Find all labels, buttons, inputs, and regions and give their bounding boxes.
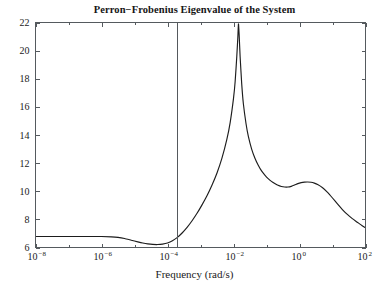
x-tick-exponent: −4 — [171, 250, 179, 258]
x-tick-label: 10 — [94, 251, 104, 262]
y-tick-label: 10 — [20, 186, 30, 197]
y-tick-label: 8 — [25, 214, 30, 225]
y-tick-label: 12 — [20, 158, 30, 169]
y-tick-label: 22 — [20, 17, 30, 28]
x-tick-labels: 10−810−610−410−2100102 — [28, 250, 373, 262]
y-tick-label: 20 — [20, 45, 30, 56]
x-axis-label: Frequency (rad/s) — [0, 268, 389, 280]
y-tick-label: 6 — [25, 242, 30, 253]
y-tick-label: 14 — [20, 130, 30, 141]
x-tick-label: 10 — [160, 251, 170, 262]
y-tick-label: 18 — [20, 73, 30, 84]
x-tick-exponent: 0 — [303, 250, 307, 258]
x-tick-label: 10 — [358, 251, 368, 262]
x-tick-label: 10 — [226, 251, 236, 262]
plot-background — [35, 22, 365, 247]
chart-figure: Perron−Frobenius Eigenvalue of the Syste… — [0, 0, 389, 288]
x-tick-exponent: 2 — [369, 250, 373, 258]
y-tick-label: 16 — [20, 101, 30, 112]
plot-area: 10−810−610−410−2100102 6810121416182022 — [0, 0, 389, 288]
x-tick-exponent: −6 — [105, 250, 113, 258]
y-tick-labels: 6810121416182022 — [20, 17, 30, 253]
x-tick-label: 10 — [292, 251, 302, 262]
x-tick-exponent: −2 — [237, 250, 245, 258]
x-tick-exponent: −8 — [39, 250, 47, 258]
